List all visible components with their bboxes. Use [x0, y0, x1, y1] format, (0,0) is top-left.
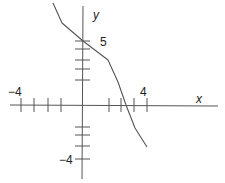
function-curve: [53, 3, 147, 147]
x-tick-label-4: 4: [140, 85, 147, 99]
x-axis-label: x: [195, 92, 203, 106]
chart-canvas: y 5 −4 4 x −4: [0, 0, 225, 183]
y-axis-label: y: [92, 8, 100, 22]
y-tick-label-neg4: −4: [59, 153, 73, 167]
y-tick-label-5: 5: [100, 35, 107, 49]
y-axis: [82, 6, 83, 179]
x-tick-label-neg4: −4: [8, 85, 22, 99]
x-axis: [10, 105, 218, 106]
